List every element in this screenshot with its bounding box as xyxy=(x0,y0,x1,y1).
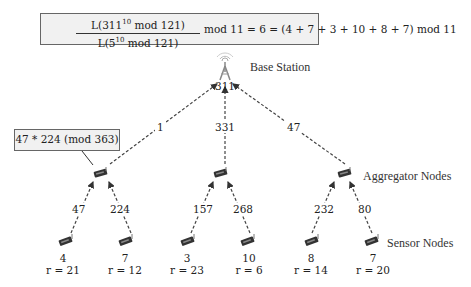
sensor-nodes-label: Sensor Nodes xyxy=(387,236,453,251)
edge-label-s2: 224 xyxy=(110,203,130,215)
aggregator-node-icon xyxy=(337,166,353,178)
sensor-3: 3r = 23 xyxy=(162,252,212,276)
sensor-node-icon xyxy=(58,234,74,246)
sensor-node-icon xyxy=(118,234,134,246)
aggregator-nodes-label: Aggregator Nodes xyxy=(363,169,451,184)
edge-label-s1: 47 xyxy=(72,203,85,215)
edge-label-agg1: 1 xyxy=(155,121,166,133)
sensor-2: 7r = 12 xyxy=(100,252,150,276)
sensor-node-icon xyxy=(240,234,256,246)
sensor-node-icon xyxy=(304,234,320,246)
aggregation-callout: 47 * 224 (mod 363) xyxy=(14,129,120,151)
sensor-node-icon xyxy=(364,234,380,246)
edge-label-agg3: 47 xyxy=(285,121,302,133)
base-station-label: Base Station xyxy=(250,60,310,75)
edge-label-s3: 157 xyxy=(193,203,213,215)
sensor-5: 8r = 14 xyxy=(286,252,336,276)
sensor-node-icon xyxy=(180,234,196,246)
edge-label-s4: 268 xyxy=(233,203,253,215)
aggregator-node-icon xyxy=(93,166,109,178)
aggregator-node-icon xyxy=(213,166,229,178)
edge-label-agg2: 331 xyxy=(214,121,236,133)
base-station-value: 311 xyxy=(215,80,235,92)
edge-label-s6: 80 xyxy=(358,203,371,215)
sensor-4: 10r = 6 xyxy=(224,252,274,276)
edge-label-s5: 232 xyxy=(314,203,334,215)
sensor-1: 4r = 21 xyxy=(38,252,88,276)
sensor-6: 7r = 20 xyxy=(348,252,398,276)
tower-icon xyxy=(217,53,233,80)
